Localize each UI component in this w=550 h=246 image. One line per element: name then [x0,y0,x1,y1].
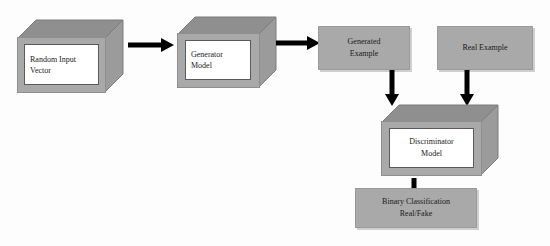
generated-example-label-line-1: Generated [348,36,381,48]
discriminator-model-label-line-1: Discriminator [409,136,453,148]
generator-model-label-line-1: Generator [191,49,250,60]
random-input-vector-label-line-1: Random Input [30,54,98,65]
node-real-example[interactable]: Real Example [437,26,533,70]
node-binary-classification[interactable]: Binary Classification Real/Fake [355,188,477,228]
binary-classification-label-line-2: Real/Fake [400,208,432,220]
arrow-generator-to-generated-example [276,34,320,52]
node-generator-model[interactable]: Generator Model [173,12,277,92]
discriminator-model-label-panel: Discriminator Model [389,128,474,168]
node-discriminator-model[interactable]: Discriminator Model [377,100,499,180]
node-generated-example[interactable]: Generated Example [318,26,410,70]
random-input-vector-label-line-2: Vector [30,65,98,76]
gan-architecture-diagram: Random Input Vector Generator Model Gene… [0,0,550,246]
discriminator-model-label-line-2: Model [421,148,442,160]
generator-model-label-panel: Generator Model [185,40,251,80]
random-input-vector-label-panel: Random Input Vector [24,44,99,85]
node-random-input-vector[interactable]: Random Input Vector [12,14,124,98]
binary-classification-label-line-1: Binary Classification [382,196,450,208]
generator-model-label-line-2: Model [191,60,250,71]
arrow-input-to-generator [128,36,174,54]
generated-example-label-line-2: Example [350,48,378,60]
real-example-label-line-1: Real Example [462,42,507,54]
